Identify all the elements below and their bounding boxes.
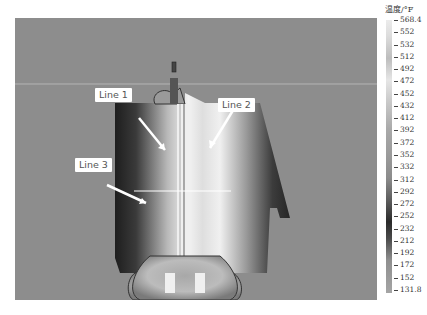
colorbar-tick-label: 512 (400, 53, 414, 61)
colorbar-tick (394, 167, 398, 168)
colorbar-tick (394, 32, 398, 33)
figure-caption (130, 303, 310, 315)
colorbar-tick (394, 204, 398, 205)
colorbar-tick (394, 81, 398, 82)
colorbar-tick (394, 278, 398, 279)
line3-label: Line 3 (75, 158, 112, 172)
colorbar-tick-label: 252 (400, 212, 414, 220)
colorbar-tick (394, 216, 398, 217)
colorbar-tick-label: 192 (400, 249, 414, 257)
colorbar-tick-label: 412 (400, 114, 414, 122)
colorbar-tick-label: 172 (400, 261, 414, 269)
colorbar-tick (394, 253, 398, 254)
colorbar-tick-label: 272 (400, 200, 414, 208)
colorbar-tick-label: 552 (400, 28, 414, 36)
colorbar-tick-label: 332 (400, 163, 414, 171)
colorbar-tick-label: 472 (400, 77, 414, 85)
colorbar-tick (394, 106, 398, 107)
thermal-plate-image (15, 18, 377, 300)
colorbar-tick-label: 372 (400, 139, 414, 147)
line2-label: Line 2 (218, 98, 255, 112)
colorbar-tick (394, 20, 398, 21)
colorbar-tick (394, 57, 398, 58)
colorbar-tick (394, 118, 398, 119)
colorbar-tick (394, 143, 398, 144)
colorbar-tick-label: 131.8 (400, 286, 421, 294)
colorbar-title: 温度/°F (385, 3, 413, 14)
colorbar-tick (394, 94, 398, 95)
colorbar-tick (394, 130, 398, 131)
colorbar (386, 20, 392, 293)
colorbar-tick-label: 432 (400, 102, 414, 110)
colorbar-tick-label: 492 (400, 65, 414, 73)
thermal-image-panel: Line 1 Line 2 Line 3 (15, 18, 377, 300)
colorbar-tick-label: 152 (400, 274, 414, 282)
colorbar-tick-label: 352 (400, 151, 414, 159)
colorbar-tick (394, 290, 398, 291)
colorbar-tick (394, 45, 398, 46)
colorbar-tick (394, 241, 398, 242)
line1-label: Line 1 (95, 88, 132, 102)
colorbar-tick (394, 192, 398, 193)
colorbar-tick-label: 232 (400, 225, 414, 233)
colorbar-tick (394, 265, 398, 266)
colorbar-tick-label: 392 (400, 126, 414, 134)
colorbar-tick (394, 155, 398, 156)
colorbar-tick-label: 292 (400, 188, 414, 196)
colorbar-tick-label: 312 (400, 176, 414, 184)
colorbar-tick (394, 229, 398, 230)
colorbar-tick-label: 532 (400, 41, 414, 49)
colorbar-tick-label: 452 (400, 90, 414, 98)
colorbar-tick-label: 568.4 (400, 16, 421, 24)
colorbar-tick (394, 69, 398, 70)
colorbar-tick-label: 212 (400, 237, 414, 245)
colorbar-tick (394, 180, 398, 181)
